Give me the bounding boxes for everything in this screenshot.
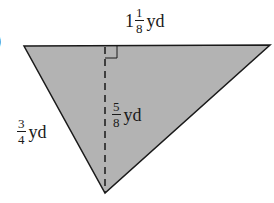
left-side-label: 3 4 yd <box>16 117 47 146</box>
top-whole: 1 <box>125 12 134 30</box>
left-unit: yd <box>29 123 47 141</box>
height-fraction: 5 8 <box>112 100 121 129</box>
height-label: 5 8 yd <box>111 100 142 129</box>
left-fraction: 3 4 <box>17 117 26 146</box>
triangle-shape <box>24 45 270 193</box>
top-fraction: 1 8 <box>135 6 144 35</box>
top-unit: yd <box>147 12 165 30</box>
height-unit: yd <box>124 106 142 124</box>
top-side-label: 1 1 8 yd <box>125 6 165 35</box>
